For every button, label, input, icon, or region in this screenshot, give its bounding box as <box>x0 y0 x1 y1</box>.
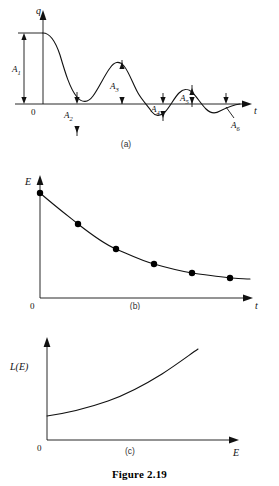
data-point <box>75 221 81 227</box>
amplitude-label-a6: A6 <box>230 120 241 132</box>
panel-c-y-arrowhead <box>44 337 51 347</box>
panel-c-origin-label: 0 <box>37 443 42 453</box>
panel-b-caption: (b) <box>130 301 141 310</box>
panel-a-caption: (a) <box>121 139 132 149</box>
amplitude-label-a2: A2 <box>63 110 74 122</box>
amplitude-label-a3: A3 <box>109 81 120 93</box>
data-point <box>151 261 157 267</box>
panel-c-caption: (c) <box>125 446 135 456</box>
panel-c-chart: L(E) E 0 (c) <box>0 318 279 458</box>
panel-c-x-arrowhead <box>229 437 239 444</box>
data-point <box>189 270 195 276</box>
panel-c-y-axis-label: L(E) <box>9 361 29 373</box>
panel-b-y-axis-label: E <box>24 176 31 187</box>
exponential-decay-curve <box>40 193 250 279</box>
panel-a-y-axis-label: q <box>36 5 41 16</box>
data-point <box>37 190 43 196</box>
figure-2-19: A1 A2 A3 A4 A5 A6 q t 0 (a) <box>0 0 279 486</box>
panel-a-origin-label: 0 <box>31 107 36 117</box>
figure-caption: Figure 2.19 <box>0 468 279 480</box>
panel-b-y-arrowhead <box>37 175 44 185</box>
a1-arrow-up <box>21 33 26 40</box>
panel-a-chart: A1 A2 A3 A4 A5 A6 q t 0 (a) <box>0 0 279 150</box>
panel-a-x-axis-label: t <box>254 105 257 116</box>
panel-b-x-axis-label: t <box>255 300 258 310</box>
panel-a-x-arrowhead <box>242 101 252 108</box>
a1-arrow-down <box>21 97 26 104</box>
data-point <box>227 275 233 281</box>
damped-oscillation-curve <box>43 33 240 115</box>
panel-c-x-axis-label: E <box>232 447 239 458</box>
panel-b-x-arrowhead <box>243 295 253 302</box>
amplitude-label-a5: A5 <box>179 93 190 105</box>
loss-function-curve <box>47 349 198 416</box>
panel-b-origin-label: 0 <box>30 301 35 310</box>
a2-arrow-up <box>74 97 79 104</box>
amplitude-label-a1: A1 <box>11 64 21 76</box>
a6-leader <box>226 107 234 118</box>
panel-b-chart: E t 0 (b) <box>0 158 279 310</box>
data-point <box>113 246 119 252</box>
